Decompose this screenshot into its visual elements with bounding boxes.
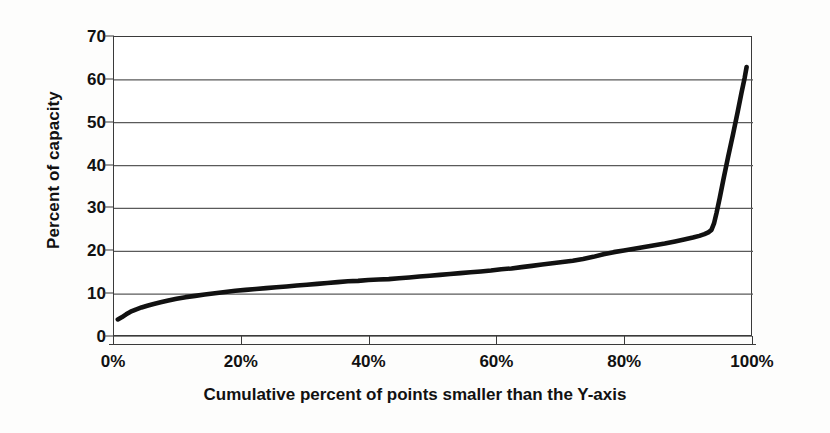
y-tick-label: 0 xyxy=(58,328,106,345)
y-tick-label: 10 xyxy=(58,285,106,302)
x-tick-label: 0% xyxy=(101,352,126,372)
y-tick-label: 70 xyxy=(58,28,106,45)
x-tick-mark xyxy=(369,336,370,345)
y-tick-label: 50 xyxy=(58,113,106,130)
x-tick-mark xyxy=(241,336,242,345)
y-tick-label: 20 xyxy=(58,242,106,259)
y-axis-tick-labels: 010203040506070 xyxy=(58,36,106,336)
data-line-0 xyxy=(118,67,747,319)
x-tick-mark xyxy=(624,336,625,345)
x-tick-label: 100% xyxy=(730,352,773,372)
x-tick-mark xyxy=(496,336,497,345)
chart-figure: Percent of capacity 010203040506070 0%20… xyxy=(0,0,830,433)
x-tick-label: 60% xyxy=(479,352,513,372)
data-series-group xyxy=(118,67,747,319)
plot-area xyxy=(113,36,752,336)
x-tick-mark xyxy=(113,336,114,345)
x-tick-label: 80% xyxy=(607,352,641,372)
x-tick-mark xyxy=(752,336,753,345)
gridlines xyxy=(114,80,753,337)
y-tick-label: 60 xyxy=(58,70,106,87)
y-tick-label: 40 xyxy=(58,156,106,173)
x-tick-label: 20% xyxy=(224,352,258,372)
x-axis-tick-labels: 0%20%40%60%80%100% xyxy=(113,352,752,378)
plot-svg xyxy=(114,37,753,337)
y-tick-label: 30 xyxy=(58,199,106,216)
x-tick-label: 40% xyxy=(352,352,386,372)
x-axis-tick-marks xyxy=(113,336,752,346)
x-axis-title: Cumulative percent of points smaller tha… xyxy=(0,385,830,405)
